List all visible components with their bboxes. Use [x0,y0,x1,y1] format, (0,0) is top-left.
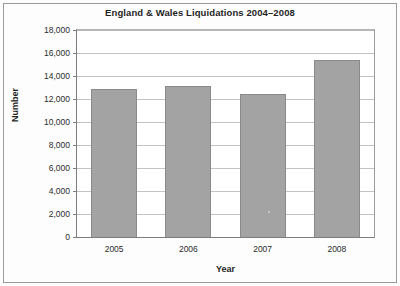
bar-2006 [165,86,211,237]
x-axis-tick-label: 2007 [253,244,272,254]
x-axis-title: Year [76,264,375,274]
y-axis-tick-label: 0 [65,232,70,242]
y-axis-tick-label: 8,000 [49,140,70,150]
chart-figure: England & Wales Liquidations 2004–2008 N… [0,0,400,286]
bar-2005 [91,89,137,237]
y-axis-tick-label: 2,000 [49,209,70,219]
bar-2008 [314,60,360,237]
y-axis-tick-label: 4,000 [49,186,70,196]
y-axis-tick-mark [73,237,77,238]
y-axis-title: Number [10,104,20,122]
y-axis-tick-label: 16,000 [44,48,70,58]
y-axis-tick-label: 10,000 [44,117,70,127]
chart-title: England & Wales Liquidations 2004–2008 [0,7,400,18]
scan-artifact-speck [268,211,270,213]
x-axis-tick-label: 2005 [105,244,124,254]
x-axis-tick-label: 2008 [327,244,346,254]
y-axis-tick-label: 12,000 [44,94,70,104]
y-axis-tick-label: 6,000 [49,163,70,173]
y-axis-tick-label: 18,000 [44,25,70,35]
plot-area: 02,0004,0006,0008,00010,00012,00014,0001… [76,29,375,238]
x-axis-tick-label: 2006 [179,244,198,254]
bar-2007 [240,94,286,237]
y-axis-tick-label: 14,000 [44,71,70,81]
bars-group [77,30,374,237]
